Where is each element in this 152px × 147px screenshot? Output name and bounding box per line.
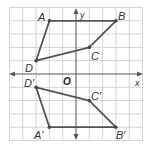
label-c: C [91, 50, 99, 62]
vertex-a-prime [48, 125, 52, 129]
label-c-prime: C′ [91, 90, 102, 102]
vertex-c [88, 46, 92, 50]
y-axis-label: y [79, 10, 85, 20]
origin-label: O [63, 76, 71, 87]
vertex-a [48, 19, 52, 23]
x-axis-label: x [134, 78, 140, 88]
vertex-d-prime [34, 86, 38, 90]
coordinate-plane-diagram: A B C D D′ C′ A′ B′ y x O [0, 0, 152, 147]
vertex-d [34, 59, 38, 63]
label-a: A [37, 11, 45, 23]
label-d: D [25, 62, 33, 74]
label-b-prime: B′ [116, 129, 126, 141]
label-b: B [118, 10, 125, 22]
y-axis-up-arrow-icon [74, 8, 79, 14]
y-axis-down-arrow-icon [74, 134, 79, 140]
label-d-prime: D′ [24, 77, 35, 89]
label-a-prime: A′ [33, 129, 44, 141]
